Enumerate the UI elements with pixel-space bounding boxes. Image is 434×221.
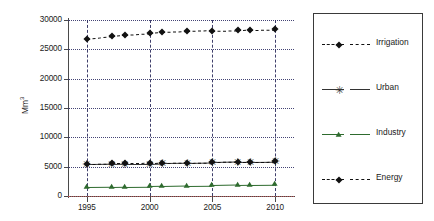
chart-figure: Mm3 050001000015000200002500030000 19952…: [0, 0, 434, 221]
x-tick-label: 2000: [130, 203, 170, 212]
data-point-diamond: [121, 160, 128, 167]
legend-label: Urban: [376, 82, 399, 92]
gridline-horizontal: [68, 196, 294, 197]
legend-item-energy[interactable]: Energy: [314, 167, 422, 193]
data-point-diamond: [146, 160, 153, 167]
data-point-diamond: [209, 159, 216, 166]
x-tick-label: 2005: [192, 203, 232, 212]
legend: Irrigation✳UrbanIndustryEnergy: [313, 13, 423, 204]
legend-item-irrigation[interactable]: Irrigation: [314, 32, 422, 58]
y-tick-label: 20000: [2, 74, 62, 83]
legend-label: Energy: [376, 172, 403, 182]
legend-label: Industry: [376, 127, 406, 137]
legend-line-sample: [322, 178, 370, 182]
data-point-diamond: [184, 159, 191, 166]
legend-line-sample: [322, 88, 370, 92]
x-tick-label: 2010: [255, 203, 295, 212]
legend-marker-star: ✳: [335, 86, 344, 95]
plot-area: ✳✳✳✳✳✳✳✳✳✳: [68, 20, 294, 196]
legend-item-urban[interactable]: ✳Urban: [314, 77, 422, 103]
legend-label: Irrigation: [376, 37, 409, 47]
series-energy: [68, 20, 294, 196]
y-tick-label: 5000: [2, 162, 62, 171]
y-tick-label: 25000: [2, 44, 62, 53]
data-point-diamond: [83, 160, 90, 167]
x-tick-label: 1995: [67, 203, 107, 212]
y-tick-label: 0: [2, 191, 62, 200]
legend-marker-triangle: [336, 132, 342, 137]
data-point-diamond: [159, 159, 166, 166]
data-point-diamond: [247, 158, 254, 165]
data-point-diamond: [234, 158, 241, 165]
data-point-diamond: [108, 160, 115, 167]
data-point-diamond: [272, 158, 279, 165]
legend-line-sample: [322, 43, 370, 47]
y-tick-label: 30000: [2, 15, 62, 24]
legend-line-sample: [322, 133, 370, 137]
y-tick-label: 15000: [2, 103, 62, 112]
legend-item-industry[interactable]: Industry: [314, 122, 422, 148]
y-tick-label: 10000: [2, 132, 62, 141]
